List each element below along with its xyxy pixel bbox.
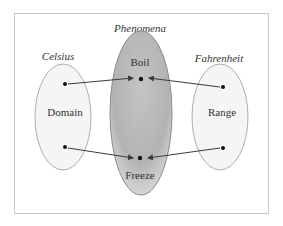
boil-label: Boil	[131, 56, 150, 68]
fahrenheit-title: Fahrenheit	[194, 52, 244, 64]
celsius-point-top	[63, 82, 67, 86]
freeze-label: Freeze	[125, 169, 154, 181]
mapping-diagram: Celsius Phenomena Fahrenheit Domain Boil…	[0, 0, 283, 226]
diagram-canvas: Celsius Phenomena Fahrenheit Domain Boil…	[0, 0, 283, 226]
fahrenheit-point-bottom	[221, 146, 225, 150]
range-label: Range	[208, 106, 236, 118]
celsius-point-bottom	[63, 145, 67, 149]
fahrenheit-point-top	[221, 85, 225, 89]
boil-point	[139, 77, 143, 81]
domain-label: Domain	[47, 106, 83, 118]
freeze-point	[138, 156, 142, 160]
celsius-title: Celsius	[42, 50, 74, 62]
